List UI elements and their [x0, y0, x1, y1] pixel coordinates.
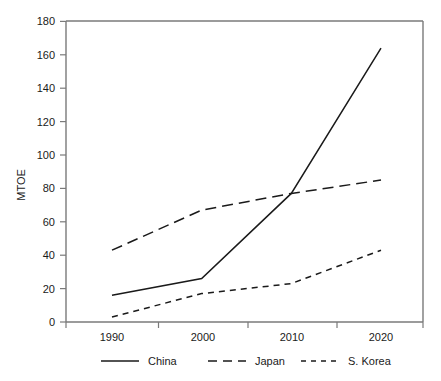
- y-axis-tick-labels: 0 20 40 60 80 100 120 140 160 180: [37, 15, 55, 328]
- y-tick-label: 140: [37, 82, 55, 94]
- x-axis-tick-labels: 1990 2000 2010 2020: [100, 331, 393, 343]
- y-tick-label: 180: [37, 15, 55, 27]
- x-tick-label: 2000: [191, 331, 215, 343]
- series-line-japan: [112, 180, 381, 250]
- legend-label-china: China: [148, 355, 178, 367]
- y-tick-label: 0: [49, 316, 55, 328]
- y-tick-label: 20: [43, 283, 55, 295]
- y-axis-title: MTOE: [15, 169, 27, 201]
- series-line-china: [112, 48, 381, 295]
- legend-label-japan: Japan: [255, 355, 285, 367]
- y-axis-ticks: [60, 21, 66, 322]
- x-tick-label: 2010: [280, 331, 304, 343]
- x-tick-label: 1990: [100, 331, 124, 343]
- series-line-s-korea: [112, 250, 381, 317]
- chart-legend: China Japan S. Korea: [101, 355, 392, 367]
- y-tick-label: 40: [43, 249, 55, 261]
- y-tick-label: 160: [37, 49, 55, 61]
- y-tick-label: 60: [43, 216, 55, 228]
- x-tick-label: 2020: [369, 331, 393, 343]
- legend-label-s-korea: S. Korea: [348, 355, 392, 367]
- y-tick-label: 100: [37, 149, 55, 161]
- chart-canvas: 0 20 40 60 80 100 120 140 160 180 MTOE 1…: [0, 0, 441, 381]
- line-chart-figure: 0 20 40 60 80 100 120 140 160 180 MTOE 1…: [0, 0, 441, 381]
- x-axis-ticks: [66, 322, 423, 328]
- series-group: [112, 48, 381, 317]
- y-tick-label: 120: [37, 116, 55, 128]
- y-tick-label: 80: [43, 182, 55, 194]
